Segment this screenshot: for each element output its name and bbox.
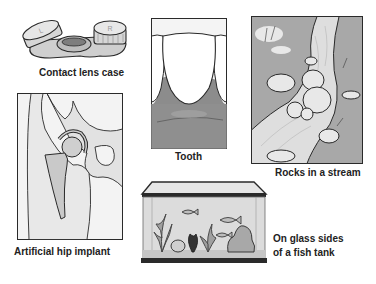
label-fish-tank-line1: On glass sides	[273, 232, 344, 245]
label-fish-tank-line2: of a fish tank	[273, 246, 335, 259]
label-tooth: Tooth	[175, 150, 202, 163]
stream-rocks-icon	[251, 16, 363, 164]
fish-tank-icon	[140, 180, 268, 264]
panel-tooth	[151, 18, 227, 149]
svg-text:R: R	[107, 25, 112, 32]
label-contact-lens-case: Contact lens case	[39, 66, 124, 79]
panel-hip-implant	[17, 93, 123, 240]
panel-rocks-in-stream	[251, 16, 363, 164]
label-hip-implant: Artificial hip implant	[14, 245, 110, 258]
panel-contact-lens-case: L R	[20, 14, 132, 62]
hip-implant-icon	[17, 93, 123, 240]
contact-lens-case-icon: L R	[20, 14, 132, 62]
tooth-icon	[151, 18, 227, 149]
label-rocks-in-stream: Rocks in a stream	[275, 166, 361, 179]
panel-fish-tank	[140, 180, 268, 264]
